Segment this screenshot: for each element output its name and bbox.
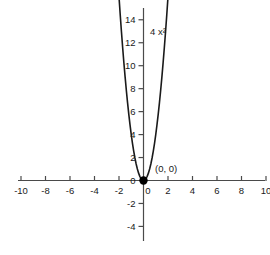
curve-equation-label: 4 x² bbox=[150, 26, 166, 37]
y-axis-tick-label: 6 bbox=[130, 106, 135, 117]
x-axis-tick-label: -2 bbox=[115, 185, 123, 196]
x-axis-tick-label: 8 bbox=[239, 185, 244, 196]
parabola-plot: -10-8-6-4-20246810 14121086420-2-4 (0, 0… bbox=[0, 0, 270, 255]
x-axis-tick-label: -8 bbox=[41, 185, 49, 196]
y-axis-tick-label: 14 bbox=[125, 14, 136, 25]
y-axis-tick-label: 12 bbox=[125, 37, 136, 48]
x-axis-tick-label: -6 bbox=[66, 185, 74, 196]
vertex-point-marker bbox=[139, 176, 147, 184]
y-axis-tick-label: 0 bbox=[130, 175, 135, 186]
x-axis-tick-label: -4 bbox=[90, 185, 98, 196]
y-axis-tick-label: 8 bbox=[130, 83, 135, 94]
x-axis-tick-label: 0 bbox=[145, 185, 150, 196]
chart-page: -10-8-6-4-20246810 14121086420-2-4 (0, 0… bbox=[0, 0, 270, 255]
y-axis-tick-label: 10 bbox=[125, 60, 136, 71]
x-axis-tick-label: 4 bbox=[190, 185, 195, 196]
x-axis-tick-label: 6 bbox=[214, 185, 219, 196]
y-axis-tick-label: -2 bbox=[127, 198, 135, 209]
vertex-point-label: (0, 0) bbox=[155, 163, 177, 174]
x-axis-tick-label: 2 bbox=[165, 185, 170, 196]
x-axis-tick-label: 10 bbox=[261, 185, 270, 196]
y-axis-tick-label: -4 bbox=[127, 221, 135, 232]
x-axis-tick-label: -10 bbox=[14, 185, 28, 196]
